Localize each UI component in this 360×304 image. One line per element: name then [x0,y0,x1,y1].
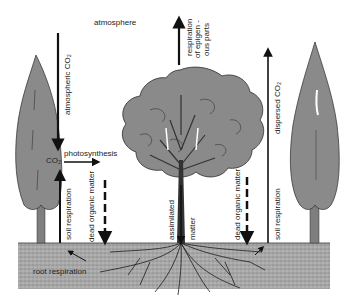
carbon-cycle-diagram: atmosphere atmospheric CO₂ CO₂ photosynt… [0,0,360,304]
label-atmosphere: atmosphere [94,19,136,27]
label-dead-organic-matter-right: dead organic matter [234,169,242,240]
label-assimilated: assimilated [168,200,176,240]
label-matter: matter [189,217,197,240]
label-of-epigeous-line2: ous parts [203,23,211,56]
label-of-epigeous-line1: of epigen - [194,20,202,58]
label-photosynthesis: photosynthesis [64,150,117,158]
label-atmospheric-co2: atmospheric CO₂ [64,54,72,115]
left-cypress-tree [16,55,62,243]
label-co2: CO₂ [46,157,61,165]
diagram-graphics [0,0,360,304]
label-soil-respiration-left: soil respiration [65,188,73,240]
label-root-respiration: root respiration [33,268,86,276]
label-soil-respiration-right: soil respiration [274,188,282,240]
label-dead-organic-matter-left: dead organic matter [88,171,96,242]
label-dispersed-co2: dispersed CO₂ [274,82,282,134]
soil-layer [18,243,330,289]
right-cypress-tree [290,42,339,243]
